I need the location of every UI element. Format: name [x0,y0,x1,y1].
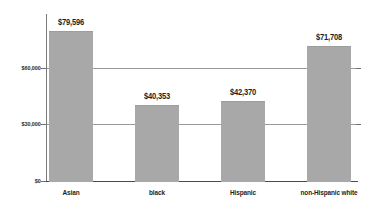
y-axis-line [46,14,47,182]
y-axis-label-0: $0 [35,177,41,184]
category-label-non-hispanic-white: non-Hispanic white [293,188,365,197]
category-label-black: black [130,188,184,197]
right-tick-30000 [356,124,361,125]
y-tick-30000 [41,124,46,125]
bar-asian [49,31,93,182]
bar-value-asian: $79,596 [44,17,98,27]
y-tick-0 [41,181,46,182]
bar-value-black: $40,353 [130,91,184,101]
bar-value-non-hispanic-white: $71,708 [302,32,356,42]
bar-value-hispanic: $42,370 [216,87,270,97]
category-label-asian: Asian [44,188,98,197]
right-tick-60000 [356,68,361,69]
y-axis-label-60000: $60,000 [22,64,41,71]
bar-hispanic [221,101,265,182]
bar-non-hispanic-white [307,46,351,182]
category-label-hispanic: Hispanic [216,188,270,197]
y-tick-60000 [41,68,46,69]
bar-chart: $60,000 $30,000 $0 $79,596 $40,353 $42,3… [0,0,377,212]
bar-black [135,105,179,182]
y-axis-label-30000: $30,000 [22,120,41,127]
